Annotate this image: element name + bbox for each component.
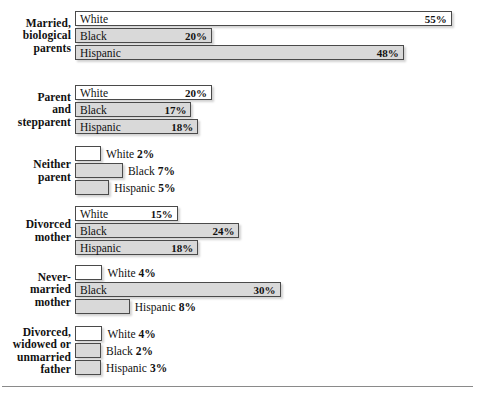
bar-value-label: 18% xyxy=(171,121,193,133)
bar-outside-label: Hispanic8% xyxy=(135,301,196,313)
bar-value-label: 8% xyxy=(179,301,196,313)
bar-value-label: 15% xyxy=(151,208,173,220)
bar-row: Hispanic5% xyxy=(75,179,477,196)
bar-black[interactable]: Black17% xyxy=(75,102,191,117)
bar-row: Black2% xyxy=(75,342,477,359)
bar-series-label: Black xyxy=(128,165,155,177)
bar-series-label: White xyxy=(80,208,108,220)
bar-series-label: Hispanic xyxy=(135,301,176,313)
group-category-label-line: stepparent xyxy=(0,116,71,129)
group-category-label: Neitherparent xyxy=(0,158,75,183)
bar-value-label: 48% xyxy=(377,47,399,59)
bar-value-label: 18% xyxy=(171,242,193,254)
bar-row: White55% xyxy=(75,10,477,27)
bar-outside-label: White2% xyxy=(106,148,154,160)
bar-series-label: Black xyxy=(80,225,107,237)
bar-outside-label: Black7% xyxy=(128,165,175,177)
bar-value-label: 3% xyxy=(150,362,167,374)
bar-black[interactable]: Black30% xyxy=(75,282,281,297)
group-category-label: Never-marriedmother xyxy=(0,271,75,309)
group-category-label-line: unmarried xyxy=(0,351,71,364)
group-category-label-line: father xyxy=(0,363,71,376)
group-bars: White20%Black17%Hispanic18% xyxy=(75,84,477,135)
group-category-label: Divorcedmother xyxy=(0,218,75,243)
bar-value-label: 5% xyxy=(158,182,175,194)
bar-row: Hispanic18% xyxy=(75,239,477,256)
bar-white[interactable]: White55% xyxy=(75,11,452,26)
bar-outside-label: White4% xyxy=(107,267,155,279)
group-category-label-line: Divorced xyxy=(0,218,71,231)
group-category-label-line: Never- xyxy=(0,271,71,284)
bar-row: White20% xyxy=(75,84,477,101)
bar-value-label: 2% xyxy=(137,148,154,160)
bar-value-label: 2% xyxy=(136,345,153,357)
bar-row: Hispanic3% xyxy=(75,359,477,376)
bar-value-label: 55% xyxy=(425,13,447,25)
bottom-divider-rule xyxy=(2,386,473,387)
chart-group: Married,biologicalparentsWhite55%Black20… xyxy=(0,10,477,61)
bar-hispanic[interactable]: Hispanic18% xyxy=(75,119,198,134)
group-category-label: Divorced,widowed orunmarriedfather xyxy=(0,326,75,376)
bar-black[interactable]: Black24% xyxy=(75,223,239,238)
group-bars: White4%Black30%Hispanic8% xyxy=(75,264,477,315)
bar-hispanic[interactable] xyxy=(75,360,101,375)
bar-black[interactable]: Black20% xyxy=(75,28,212,43)
bar-series-label: White xyxy=(106,148,134,160)
bar-hispanic[interactable] xyxy=(75,180,109,195)
bar-value-label: 30% xyxy=(254,284,276,296)
bar-series-label: Black xyxy=(80,284,107,296)
bar-series-label: White xyxy=(80,13,108,25)
group-category-label-line: parents xyxy=(0,42,71,55)
group-category-label-line: Married, xyxy=(0,17,71,30)
group-category-label-line: Parent xyxy=(0,91,71,104)
bar-row: White15% xyxy=(75,205,477,222)
bar-outside-label: Hispanic5% xyxy=(114,182,175,194)
bar-hispanic[interactable]: Hispanic18% xyxy=(75,240,198,255)
chart-group: NeitherparentWhite2%Black7%Hispanic5% xyxy=(0,145,477,196)
bar-series-label: Hispanic xyxy=(80,242,121,254)
bar-hispanic[interactable] xyxy=(75,299,130,314)
bar-white[interactable] xyxy=(75,265,102,280)
chart-group: Divorced,widowed orunmarriedfatherWhite4… xyxy=(0,325,477,376)
bar-series-label: Hispanic xyxy=(80,121,121,133)
group-category-label-line: biological xyxy=(0,29,71,42)
chart-group: ParentandstepparentWhite20%Black17%Hispa… xyxy=(0,84,477,135)
bar-series-label: Black xyxy=(106,345,133,357)
bar-series-label: Hispanic xyxy=(80,47,121,59)
grouped-bar-chart: Married,biologicalparentsWhite55%Black20… xyxy=(0,0,477,399)
bar-row: Black30% xyxy=(75,281,477,298)
chart-group: Never-marriedmotherWhite4%Black30%Hispan… xyxy=(0,264,477,315)
bar-hispanic[interactable]: Hispanic48% xyxy=(75,45,404,60)
group-category-label-line: and xyxy=(0,103,71,116)
bar-white[interactable]: White20% xyxy=(75,85,212,100)
group-category-label: Married,biologicalparents xyxy=(0,17,75,55)
bar-row: Hispanic18% xyxy=(75,118,477,135)
bar-value-label: 20% xyxy=(185,30,207,42)
bar-value-label: 7% xyxy=(158,165,175,177)
bar-series-label: Hispanic xyxy=(114,182,155,194)
group-bars: White55%Black20%Hispanic48% xyxy=(75,10,477,61)
group-bars: White4%Black2%Hispanic3% xyxy=(75,325,477,376)
bar-row: Black24% xyxy=(75,222,477,239)
bar-white[interactable] xyxy=(75,146,101,161)
group-category-label-line: parent xyxy=(0,171,71,184)
bar-black[interactable] xyxy=(75,343,101,358)
bar-value-label: 4% xyxy=(139,328,156,340)
bar-series-label: White xyxy=(107,267,135,279)
bar-outside-label: Hispanic3% xyxy=(106,362,167,374)
bar-row: White2% xyxy=(75,145,477,162)
bar-series-label: Black xyxy=(80,30,107,42)
bar-value-label: 4% xyxy=(139,267,156,279)
bar-row: White4% xyxy=(75,264,477,281)
group-category-label-line: Neither xyxy=(0,158,71,171)
bar-white[interactable] xyxy=(75,326,102,341)
bar-series-label: Black xyxy=(80,104,107,116)
group-category-label-line: mother xyxy=(0,296,71,309)
group-category-label-line: mother xyxy=(0,231,71,244)
bar-row: Black17% xyxy=(75,101,477,118)
bar-row: White4% xyxy=(75,325,477,342)
bar-value-label: 20% xyxy=(185,87,207,99)
bar-row: Black7% xyxy=(75,162,477,179)
bar-white[interactable]: White15% xyxy=(75,206,178,221)
bar-black[interactable] xyxy=(75,163,123,178)
